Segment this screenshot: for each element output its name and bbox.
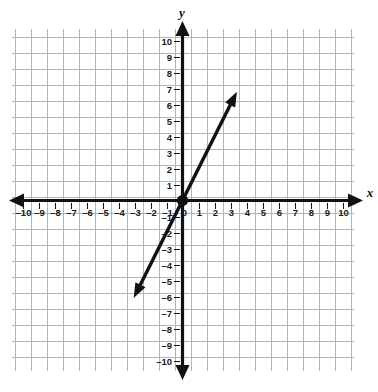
y-tick-label: 1 — [167, 180, 173, 191]
y-tick-label: 3 — [167, 148, 172, 159]
plotted-marked-points — [177, 195, 188, 206]
x-tick-label: –7 — [66, 207, 77, 218]
y-tick-label: 5 — [167, 116, 173, 127]
x-tick-label: 9 — [325, 207, 330, 218]
y-tick-label: –3 — [161, 244, 172, 255]
coordinate-plane-figure: –10–9–8–7–6–5–4–3–2–1012345678910 –10–9–… — [0, 0, 378, 392]
y-tick-label: –5 — [161, 276, 172, 287]
x-tick-label: –2 — [146, 207, 157, 218]
y-tick-label: 10 — [161, 36, 172, 47]
y-tick-label: 2 — [167, 164, 172, 175]
x-tick-label: 5 — [261, 207, 267, 218]
x-tick-label: 4 — [245, 207, 251, 218]
x-tick-label: –8 — [50, 207, 61, 218]
y-tick-label: –8 — [161, 324, 172, 335]
y-tick-label: –6 — [161, 292, 172, 303]
x-tick-label: 7 — [293, 207, 298, 218]
x-tick-label: 1 — [197, 207, 203, 218]
x-tick-label: –4 — [114, 207, 125, 218]
x-tick-label: –5 — [98, 207, 109, 218]
y-axis-label: y — [177, 5, 185, 20]
y-tick-label: 9 — [167, 52, 172, 63]
y-tick-label: –10 — [156, 356, 172, 367]
y-tick-label: –4 — [161, 260, 172, 271]
x-tick-label: –6 — [82, 207, 93, 218]
x-tick-label: 8 — [309, 207, 314, 218]
x-tick-label: –10 — [16, 207, 32, 218]
plotted-point-marker — [177, 195, 188, 206]
x-tick-label: –9 — [34, 207, 45, 218]
x-tick-label: 3 — [229, 207, 234, 218]
graph-canvas: –10–9–8–7–6–5–4–3–2–1012345678910 –10–9–… — [0, 0, 378, 392]
y-tick-label: 4 — [167, 132, 173, 143]
y-tick-label: 7 — [167, 84, 172, 95]
x-axis-label: x — [366, 185, 374, 200]
x-tick-label: –3 — [130, 207, 141, 218]
y-tick-label: 6 — [167, 100, 172, 111]
x-tick-label: 0 — [182, 207, 187, 218]
y-tick-label: 8 — [167, 68, 172, 79]
y-tick-label: –7 — [161, 308, 172, 319]
x-tick-label: 6 — [277, 207, 282, 218]
x-tick-label: 2 — [213, 207, 218, 218]
x-tick-label: 10 — [338, 207, 349, 218]
canvas-background — [0, 0, 378, 392]
y-tick-label: –9 — [161, 340, 172, 351]
